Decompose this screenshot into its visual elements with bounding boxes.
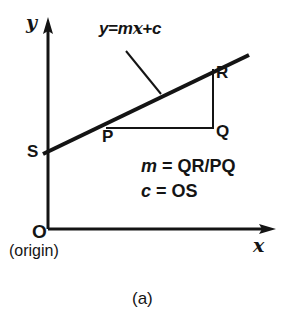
slope-formula-equals: = [162,156,173,176]
slope-formula-variable: m [141,156,157,176]
equation-leader-line [126,51,161,94]
y-axis-label: y [26,13,37,32]
equation-equals: = [108,19,118,38]
equation-x-symbol: x [133,18,143,38]
intercept-formula-expression: OS [172,181,198,201]
equation-intercept-symbol: c [152,19,161,38]
equation-slope-symbol: m [118,19,133,38]
equation-plus: + [142,19,152,38]
intercept-formula-variable: c [141,181,151,201]
figure-caption: (a) [132,290,153,307]
point-label-q: Q [216,123,229,140]
line-equation-label: y=mx+c [99,20,161,37]
origin-note: (origin) [9,243,59,259]
point-label-p: P [102,128,113,145]
slope-formula: m = QR/PQ [141,157,236,175]
intercept-formula-equals: = [156,181,167,201]
intercept-formula: c = OS [141,182,198,200]
origin-label: O [32,222,47,241]
point-label-s: S [27,143,38,160]
figure-container: y x O (origin) y=mx+c S P Q R m = QR/PQ … [0,0,290,334]
equation-lhs: y [99,19,108,38]
x-axis-label: x [253,236,264,255]
slope-formula-expression: QR/PQ [178,156,236,176]
point-label-r: R [216,64,228,81]
